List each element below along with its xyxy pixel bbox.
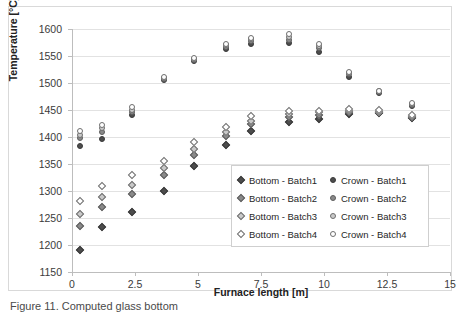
legend-item-crown-batch1[interactable]: Crown - Batch1	[330, 175, 422, 186]
y-axis-line	[72, 29, 73, 272]
gridline	[72, 83, 450, 84]
legend-label: Crown - Batch1	[341, 175, 406, 186]
x-tick-label: 0	[52, 279, 92, 290]
data-point	[128, 181, 136, 189]
circle-marker-icon	[330, 195, 336, 201]
data-point	[98, 222, 106, 230]
gridline	[72, 56, 450, 57]
x-tick-label: 7.5	[241, 279, 281, 290]
data-point	[160, 164, 168, 172]
y-tick-label: 1250	[22, 213, 62, 223]
x-tick-label: 10	[304, 279, 344, 290]
legend-label: Crown - Batch4	[341, 229, 406, 240]
legend-label: Crown - Batch2	[341, 193, 406, 204]
legend-label: Bottom - Batch3	[249, 211, 317, 222]
gridline	[72, 137, 450, 138]
data-point	[98, 193, 106, 201]
y-tick-label: 1450	[22, 105, 62, 115]
y-tick-label: 1600	[22, 24, 62, 34]
data-point	[221, 141, 229, 149]
legend-item-bottom-batch3[interactable]: Bottom - Batch3	[238, 211, 330, 222]
y-axis-label: Temperature [°C]	[7, 0, 19, 99]
gridline	[72, 29, 450, 30]
x-tick-label: 2.5	[115, 279, 155, 290]
y-tick-label: 1150	[22, 267, 62, 277]
circle-marker-icon	[330, 213, 336, 219]
diamond-marker-icon	[237, 212, 245, 220]
legend-row: Bottom - Batch2Crown - Batch2	[238, 189, 422, 207]
legend-row: Bottom - Batch1Crown - Batch1	[238, 171, 422, 189]
data-point	[75, 222, 83, 230]
data-point	[77, 143, 83, 149]
figure-caption: Figure 11. Computed glass bottom	[10, 300, 450, 316]
data-point	[128, 208, 136, 216]
data-point	[75, 197, 83, 205]
legend-item-crown-batch3[interactable]: Crown - Batch3	[330, 211, 422, 222]
data-point	[75, 209, 83, 217]
data-point	[98, 203, 106, 211]
y-tick-label: 1500	[22, 78, 62, 88]
diamond-marker-icon	[237, 194, 245, 202]
legend-item-crown-batch4[interactable]: Crown - Batch4	[330, 229, 422, 240]
data-point	[77, 128, 83, 134]
legend-row: Bottom - Batch4Crown - Batch4	[238, 225, 422, 243]
diamond-marker-icon	[237, 230, 245, 238]
y-tick-label: 1550	[22, 51, 62, 61]
legend-label: Bottom - Batch4	[249, 229, 317, 240]
y-tick-label: 1350	[22, 159, 62, 169]
data-point	[75, 246, 83, 254]
legend-item-bottom-batch2[interactable]: Bottom - Batch2	[238, 193, 330, 204]
data-point	[99, 122, 105, 128]
legend-label: Crown - Batch3	[341, 211, 406, 222]
data-point	[191, 55, 197, 61]
data-point	[99, 136, 105, 142]
data-point	[160, 187, 168, 195]
y-tick-label: 1200	[22, 240, 62, 250]
legend-item-bottom-batch1[interactable]: Bottom - Batch1	[238, 175, 330, 186]
y-tick-label: 1400	[22, 132, 62, 142]
legend-label: Bottom - Batch1	[249, 175, 317, 186]
x-tick-label: 5	[178, 279, 218, 290]
chart-frame: Temperature [°C] Furnace length [m] 1150…	[8, 6, 452, 291]
figure-container: Temperature [°C] Furnace length [m] 1150…	[0, 0, 463, 317]
legend-row: Bottom - Batch3Crown - Batch3	[238, 207, 422, 225]
legend-label: Bottom - Batch2	[249, 193, 317, 204]
y-tick-label: 1300	[22, 186, 62, 196]
data-point	[98, 182, 106, 190]
circle-marker-icon	[330, 177, 336, 183]
chart-legend: Bottom - Batch1Crown - Batch1Bottom - Ba…	[231, 165, 429, 247]
data-point	[223, 41, 229, 47]
data-point	[128, 171, 136, 179]
legend-item-bottom-batch4[interactable]: Bottom - Batch4	[238, 229, 330, 240]
data-point	[161, 74, 167, 80]
data-point	[190, 138, 198, 146]
x-axis-line	[72, 272, 450, 273]
x-tick-label: 15	[430, 279, 463, 290]
x-tick-mark	[450, 272, 451, 276]
legend-item-crown-batch2[interactable]: Crown - Batch2	[330, 193, 422, 204]
x-tick-label: 12.5	[367, 279, 407, 290]
diamond-marker-icon	[237, 176, 245, 184]
circle-marker-icon	[330, 231, 336, 237]
data-point	[190, 161, 198, 169]
